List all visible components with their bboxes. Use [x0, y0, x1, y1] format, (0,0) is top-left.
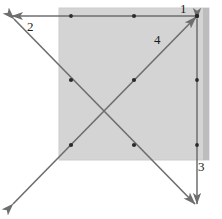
point-top-center	[132, 14, 136, 18]
point-diag-upper-left	[69, 78, 73, 82]
point-diag-lower-left	[69, 143, 73, 147]
label-line-4: 4	[154, 33, 161, 46]
shaded-square	[59, 8, 209, 160]
square-right-shadow-band	[203, 8, 209, 160]
label-line-2: 2	[27, 20, 34, 33]
point-diag-upper-right	[132, 78, 136, 82]
point-diag-lower-right	[132, 143, 136, 147]
figure-container: 1 2 3 4	[0, 0, 222, 219]
point-right-lower	[195, 143, 199, 147]
label-line-3: 3	[198, 160, 205, 173]
point-top-left-mid	[69, 14, 73, 18]
shaded-square-group	[59, 8, 209, 160]
label-line-1: 1	[180, 2, 187, 15]
point-right-upper	[195, 78, 199, 82]
point-top-right-corner	[195, 14, 199, 18]
